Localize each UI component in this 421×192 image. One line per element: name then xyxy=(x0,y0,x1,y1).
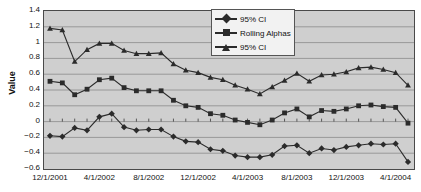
y-axis-tick: −0.6 xyxy=(12,164,40,172)
marker-square xyxy=(72,92,77,97)
marker-diamond xyxy=(356,142,362,148)
marker-diamond xyxy=(183,138,189,144)
marker-square xyxy=(282,111,287,116)
marker-diamond xyxy=(146,126,152,132)
marker-diamond xyxy=(393,141,399,147)
marker-diamond xyxy=(195,139,201,145)
marker-diamond xyxy=(405,159,411,165)
chart-legend: 95% CI Rolling Alphas 95% CI xyxy=(211,9,295,56)
x-axis-tick: 12/1/2003 xyxy=(322,173,370,182)
y-axis-tick: 0 xyxy=(12,117,40,125)
marker-triangle xyxy=(282,78,288,83)
legend-label: 95% CI xyxy=(240,15,266,24)
marker-triangle xyxy=(306,78,312,83)
marker-square xyxy=(60,80,65,85)
legend-marker-square-icon xyxy=(215,27,237,39)
marker-square xyxy=(159,88,164,93)
marker-diamond xyxy=(257,154,263,160)
marker-triangle xyxy=(269,84,275,89)
marker-square xyxy=(146,88,151,93)
y-axis-tick-labels: 1.41.210.80.60.40.20−0.2−0.4−0.6 xyxy=(8,0,40,192)
rolling-alphas-chart: Value 1.41.210.80.60.40.20−0.2−0.4−0.6 1… xyxy=(0,0,421,192)
marker-square xyxy=(196,105,201,110)
x-axis-tick-labels: 12/1/20014/1/20028/1/200212/1/20024/1/20… xyxy=(0,173,421,189)
marker-square xyxy=(233,118,238,123)
marker-square xyxy=(270,118,275,123)
marker-square xyxy=(183,103,188,108)
legend-marker-diamond-icon xyxy=(215,13,237,25)
marker-diamond xyxy=(343,144,349,150)
legend-item[interactable]: 95% CI xyxy=(215,40,291,54)
marker-triangle xyxy=(47,25,53,30)
marker-square xyxy=(381,104,386,109)
y-axis-tick: 0.6 xyxy=(12,69,40,77)
legend-marker-triangle-icon xyxy=(215,41,237,53)
marker-square xyxy=(406,121,411,126)
marker-square xyxy=(208,111,213,116)
marker-triangle xyxy=(232,82,238,87)
marker-diamond xyxy=(294,142,300,148)
marker-diamond xyxy=(244,154,250,160)
marker-diamond xyxy=(318,145,324,151)
y-axis-tick: 0.4 xyxy=(12,85,40,93)
marker-diamond xyxy=(47,133,53,139)
marker-square xyxy=(122,85,127,90)
marker-square xyxy=(85,87,90,92)
y-axis-tick: 1.2 xyxy=(12,22,40,30)
y-axis-tick: −0.2 xyxy=(12,132,40,140)
marker-square xyxy=(134,88,139,93)
marker-triangle xyxy=(84,47,90,52)
x-axis-tick: 8/1/2003 xyxy=(273,173,321,182)
y-axis-tick: 1 xyxy=(12,38,40,46)
y-axis-tick: 0.2 xyxy=(12,101,40,109)
marker-square xyxy=(295,107,300,112)
marker-square xyxy=(356,103,361,108)
marker-triangle xyxy=(294,71,300,76)
marker-square xyxy=(245,120,250,125)
marker-square xyxy=(369,103,374,108)
marker-square xyxy=(332,109,337,114)
marker-square xyxy=(393,105,398,110)
x-axis-tick: 4/1/2003 xyxy=(224,173,272,182)
marker-square xyxy=(109,76,114,81)
marker-square xyxy=(319,108,324,113)
marker-diamond xyxy=(170,134,176,140)
legend-label: Rolling Alphas xyxy=(240,29,291,38)
x-axis-tick: 12/1/2002 xyxy=(174,173,222,182)
series-line xyxy=(50,78,408,125)
marker-diamond xyxy=(306,150,312,156)
marker-square xyxy=(48,79,53,84)
marker-square xyxy=(220,113,225,118)
marker-square xyxy=(344,107,349,112)
x-axis-tick: 4/1/2004 xyxy=(372,173,420,182)
marker-diamond xyxy=(207,146,213,152)
marker-square xyxy=(97,77,102,82)
marker-square xyxy=(257,122,262,127)
marker-diamond xyxy=(133,127,139,133)
marker-square xyxy=(307,114,312,119)
x-axis-tick: 12/1/2001 xyxy=(26,173,74,182)
legend-item[interactable]: 95% CI xyxy=(215,12,291,26)
legend-item[interactable]: Rolling Alphas xyxy=(215,26,291,40)
marker-triangle xyxy=(121,48,127,53)
marker-triangle xyxy=(183,67,189,72)
series-2 xyxy=(48,76,411,127)
x-axis-tick: 4/1/2002 xyxy=(75,173,123,182)
legend-label: 95% CI xyxy=(240,43,266,52)
y-axis-tick: 0.8 xyxy=(12,53,40,61)
y-axis-tick: −0.4 xyxy=(12,148,40,156)
y-axis-tick: 1.4 xyxy=(12,6,40,14)
marker-square xyxy=(171,98,176,103)
marker-diamond xyxy=(158,126,164,132)
marker-diamond xyxy=(380,141,386,147)
marker-diamond xyxy=(368,141,374,147)
marker-diamond xyxy=(331,147,337,153)
x-axis-tick: 8/1/2002 xyxy=(125,173,173,182)
